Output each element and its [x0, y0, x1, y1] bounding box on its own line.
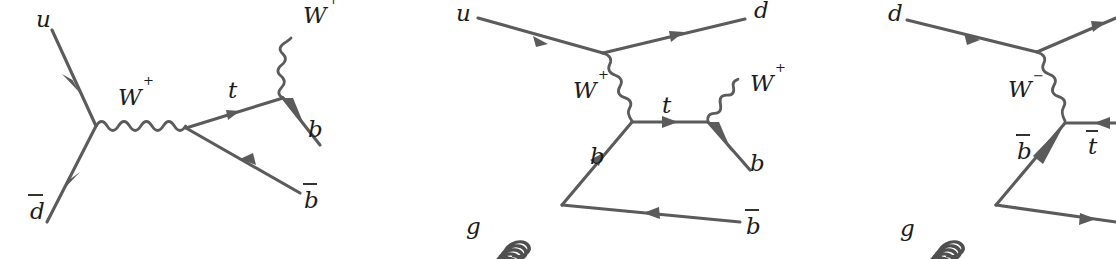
- boson-propagator-w-plus: [96, 122, 186, 131]
- label-w-minus-propagator: W: [1008, 76, 1034, 102]
- label-top: t: [662, 92, 672, 118]
- diagram-t-channel-single-antitop: d W − b t g: [860, 0, 1116, 259]
- label-w-plus-propagator: W: [573, 77, 599, 103]
- arrowhead-antitop: [1094, 117, 1110, 129]
- boson-line-w-plus-decay: [278, 38, 291, 98]
- gluon-line-incoming: [919, 240, 968, 259]
- label-b-from-top: b: [750, 150, 765, 176]
- fermion-line-bbar: [186, 128, 300, 193]
- label-w-plus-outgoing: W: [750, 70, 776, 96]
- arrowhead-bbar-outgoing: [643, 207, 660, 219]
- arrowhead-lower-outgoing: [1079, 213, 1096, 225]
- boson-propagator-w-plus: [603, 53, 632, 121]
- label-u-incoming: u: [456, 0, 471, 26]
- fermion-line-u-incoming: [478, 18, 603, 53]
- fermion-line-lower-outgoing: [996, 205, 1116, 222]
- label-w-plus-outgoing-charge: +: [328, 0, 339, 7]
- label-w-plus-outgoing: W: [303, 2, 329, 28]
- label-gluon-incoming: g: [900, 215, 915, 241]
- label-d-outgoing: d: [754, 0, 769, 23]
- arrowhead-upper-outgoing: [1091, 21, 1106, 32]
- feynman-diagram-figure: u d W + t W + b b: [0, 0, 1116, 259]
- label-w-minus-propagator-charge: −: [1033, 68, 1044, 83]
- diagram-t-channel-single-top: u d W + b t W + b g b: [440, 0, 830, 259]
- label-top: t: [228, 77, 238, 103]
- label-w-plus-outgoing-charge: +: [775, 60, 786, 75]
- label-u-incoming: u: [36, 6, 51, 32]
- label-w-plus-propagator: W: [118, 84, 144, 110]
- gluon-line-incoming: [485, 240, 534, 259]
- boson-line-w-plus-decay: [708, 79, 738, 122]
- label-dbar-incoming: d: [30, 198, 45, 224]
- label-bbar-internal: b: [1017, 138, 1032, 164]
- label-bbar-outgoing: b: [304, 187, 319, 213]
- arrowhead-bbar-internal: [1033, 123, 1065, 164]
- label-w-plus-propagator-charge: +: [598, 67, 609, 82]
- boson-propagator-w-minus: [1037, 52, 1065, 121]
- arrowhead-d-outgoing: [669, 31, 684, 42]
- label-w-plus-propagator-charge: +: [143, 73, 154, 88]
- fermion-line-d-incoming: [907, 20, 1037, 52]
- fermion-line-u-incoming: [52, 30, 96, 126]
- label-d-incoming: d: [888, 0, 903, 26]
- label-bbar-outgoing: b: [746, 213, 761, 239]
- label-gluon-incoming: g: [466, 213, 481, 239]
- label-antitop: t: [1088, 133, 1098, 159]
- fermion-line-dbar-incoming: [47, 126, 96, 222]
- arrowhead-top: [226, 110, 240, 120]
- label-b-internal: b: [590, 143, 605, 169]
- label-b-from-top: b: [308, 116, 323, 142]
- diagram-s-channel-single-top: u d W + t W + b b: [0, 0, 380, 259]
